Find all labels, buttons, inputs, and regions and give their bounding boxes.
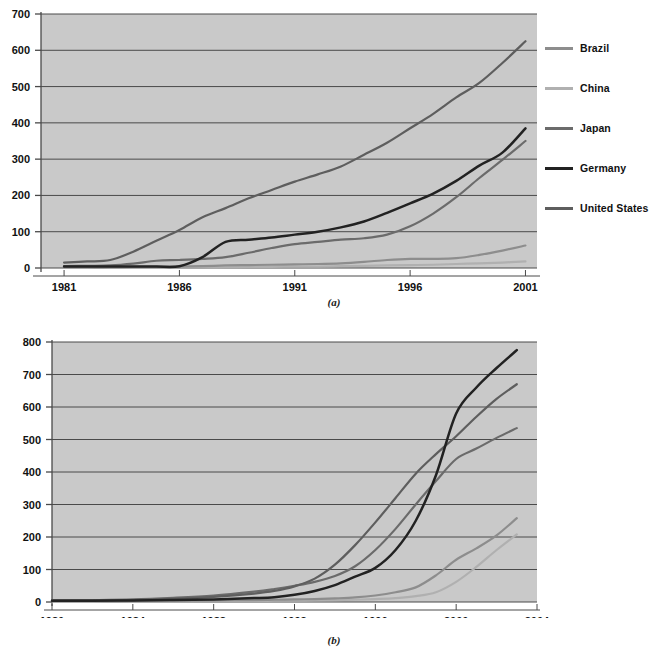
legend-item-china: China bbox=[545, 82, 648, 94]
y-axis-tick-label: 500 bbox=[23, 434, 41, 446]
y-axis-tick-label: 400 bbox=[23, 466, 41, 478]
y-axis-tick-label: 100 bbox=[12, 226, 30, 238]
y-axis-tick-label: 600 bbox=[12, 44, 30, 56]
legend-item-brazil: Brazil bbox=[545, 42, 648, 54]
legend-label: China bbox=[580, 82, 610, 94]
x-axis-tick-label: 1980 bbox=[40, 615, 64, 618]
legend-swatch-united-states-icon bbox=[545, 207, 573, 210]
chart-panel-a: 0100200300400500600700198119861991199620… bbox=[0, 0, 668, 318]
legend-a: BrazilChinaJapanGermanyUnited States bbox=[545, 42, 648, 242]
x-axis-tick-label: 1981 bbox=[52, 281, 76, 293]
y-axis-tick-label: 700 bbox=[23, 369, 41, 381]
y-axis-tick-label: 0 bbox=[24, 262, 30, 274]
subcaption-b: (b) bbox=[0, 634, 668, 646]
chart-panel-b: 0100200300400500600700800198019841988199… bbox=[0, 318, 668, 652]
y-axis-tick-label: 300 bbox=[23, 499, 41, 511]
legend-swatch-china-icon bbox=[545, 87, 573, 90]
y-axis-tick-label: 600 bbox=[23, 401, 41, 413]
x-axis-tick-label: 2004 bbox=[525, 615, 550, 618]
y-axis-tick-label: 100 bbox=[23, 564, 41, 576]
legend-label: Japan bbox=[580, 122, 611, 134]
legend-label: United States bbox=[580, 202, 648, 214]
x-axis-tick-label: 1986 bbox=[167, 281, 191, 293]
legend-swatch-germany-icon bbox=[545, 167, 573, 170]
x-axis-tick-label: 1996 bbox=[398, 281, 422, 293]
x-axis-tick-label: 2000 bbox=[444, 615, 468, 618]
y-axis-tick-label: 300 bbox=[12, 153, 30, 165]
y-axis-tick-label: 200 bbox=[12, 189, 30, 201]
legend-item-united-states: United States bbox=[545, 202, 648, 214]
y-axis-tick-label: 400 bbox=[12, 117, 30, 129]
y-axis-tick-label: 0 bbox=[35, 596, 41, 608]
legend-item-japan: Japan bbox=[545, 122, 648, 134]
figure-container: 0100200300400500600700198119861991199620… bbox=[0, 0, 668, 652]
legend-label: Germany bbox=[580, 162, 626, 174]
x-axis-tick-label: 1992 bbox=[282, 615, 306, 618]
legend-swatch-japan-icon bbox=[545, 127, 573, 130]
y-axis-tick-label: 700 bbox=[12, 8, 30, 20]
x-axis-tick-label: 2001 bbox=[513, 281, 537, 293]
y-axis-tick-label: 200 bbox=[23, 531, 41, 543]
plot-area-background bbox=[41, 14, 537, 268]
y-axis-tick-label: 500 bbox=[12, 81, 30, 93]
y-axis-tick-label: 800 bbox=[23, 336, 41, 348]
legend-label: Brazil bbox=[580, 42, 609, 54]
subcaption-a: (a) bbox=[0, 296, 668, 308]
legend-item-germany: Germany bbox=[545, 162, 648, 174]
line-chart-b: 0100200300400500600700800198019841988199… bbox=[0, 318, 668, 618]
x-axis-tick-label: 1996 bbox=[363, 615, 387, 618]
x-axis-tick-label: 1991 bbox=[283, 281, 307, 293]
x-axis-tick-label: 1984 bbox=[121, 615, 146, 618]
x-axis-tick-label: 1988 bbox=[201, 615, 225, 618]
legend-swatch-brazil-icon bbox=[545, 47, 573, 50]
